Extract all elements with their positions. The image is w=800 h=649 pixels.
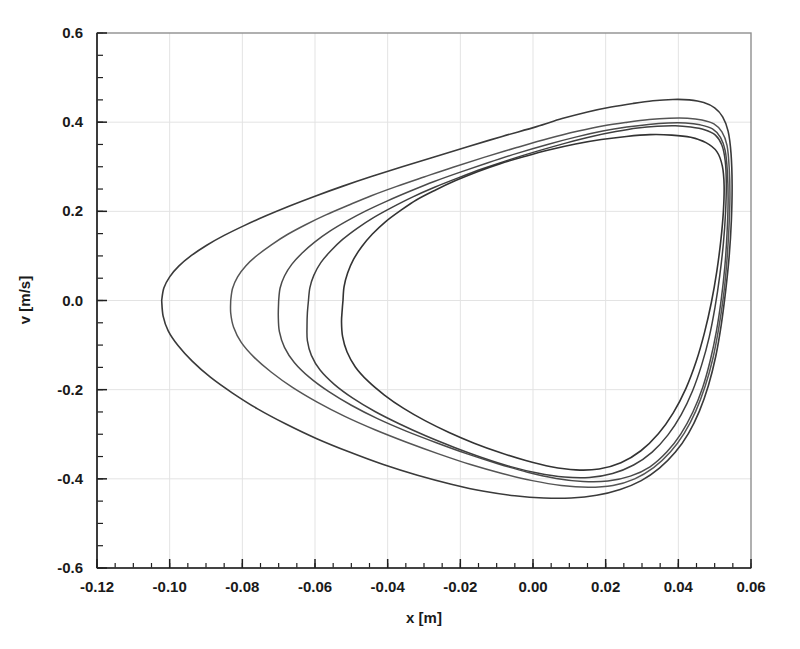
x-tick-label: 0.00 xyxy=(518,578,547,595)
x-tick-label: -0.10 xyxy=(153,578,187,595)
figure-background xyxy=(0,0,800,649)
x-tick-label: 0.06 xyxy=(736,578,765,595)
y-tick-label: -0.6 xyxy=(57,559,83,576)
phase-portrait-figure: -0.12-0.10-0.08-0.06-0.04-0.020.000.020.… xyxy=(0,0,800,649)
y-tick-label: 0.4 xyxy=(62,113,84,130)
chart-canvas: -0.12-0.10-0.08-0.06-0.04-0.020.000.020.… xyxy=(0,0,800,649)
y-tick-label: -0.2 xyxy=(57,381,83,398)
x-axis-title: x [m] xyxy=(406,609,442,626)
x-tick-label: -0.04 xyxy=(371,578,406,595)
y-tick-label: 0.6 xyxy=(62,24,83,41)
x-tick-label: -0.08 xyxy=(225,578,259,595)
y-tick-label: 0.0 xyxy=(62,292,83,309)
y-tick-label: -0.4 xyxy=(57,470,84,487)
x-tick-label: -0.02 xyxy=(443,578,477,595)
y-axis-title: v [m/s] xyxy=(16,276,33,324)
x-tick-label: -0.12 xyxy=(80,578,114,595)
x-tick-label: 0.04 xyxy=(664,578,694,595)
x-tick-label: 0.02 xyxy=(591,578,620,595)
x-tick-label: -0.06 xyxy=(298,578,332,595)
y-tick-label: 0.2 xyxy=(62,202,83,219)
